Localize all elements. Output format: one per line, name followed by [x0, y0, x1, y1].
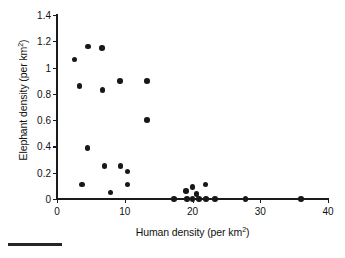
plot-area: 00.20.40.60.811.21.4010203040	[57, 15, 328, 199]
x-axis-tick	[125, 199, 126, 203]
y-axis-tick	[53, 146, 57, 147]
data-point	[125, 182, 131, 188]
data-point	[118, 163, 124, 169]
y-axis-tick-label: 0.4	[37, 141, 51, 152]
scatter-plot-figure: Elephant density (per km2) 00.20.40.60.8…	[0, 0, 345, 258]
data-point	[100, 87, 106, 93]
y-axis-title-text: Elephant density (per km	[17, 47, 29, 161]
data-point	[298, 196, 304, 202]
data-point	[190, 184, 196, 190]
y-axis-title-superscript: 2	[17, 43, 24, 47]
y-axis-tick	[53, 94, 57, 95]
y-axis-tick-label: 0.2	[37, 167, 51, 178]
data-point	[85, 145, 91, 151]
data-point	[144, 117, 150, 123]
y-axis-tick-label: 0.8	[37, 88, 51, 99]
y-axis-tick-label: 0	[45, 194, 51, 205]
data-point	[203, 182, 209, 188]
x-axis-tick-label: 20	[187, 206, 198, 217]
data-point	[183, 188, 189, 194]
data-point	[72, 57, 78, 63]
y-axis-tick-label: 1.2	[37, 36, 51, 47]
y-axis-tick	[53, 41, 57, 42]
bottom-rule	[8, 243, 62, 246]
data-point	[102, 163, 108, 169]
y-axis-tick-label: 1	[45, 62, 51, 73]
data-point	[108, 190, 114, 196]
x-axis-tick	[260, 199, 261, 203]
data-point	[212, 196, 218, 202]
y-axis-tick	[53, 173, 57, 174]
data-point	[117, 78, 123, 84]
y-axis-tick	[53, 120, 57, 121]
data-point	[85, 44, 91, 50]
y-axis-title-tail: )	[17, 40, 29, 43]
x-axis-tick-label: 10	[119, 206, 130, 217]
data-point	[125, 169, 131, 175]
data-point	[144, 78, 150, 84]
y-axis-tick-label: 1.4	[37, 10, 51, 21]
x-axis-tick	[57, 199, 58, 203]
x-axis-title-text: Human density (per km	[136, 226, 242, 238]
data-point	[243, 196, 249, 202]
data-point	[77, 83, 83, 89]
data-point	[99, 45, 105, 51]
x-axis-tick-label: 0	[54, 206, 60, 217]
data-point	[171, 196, 177, 202]
x-axis-tick-label: 30	[255, 206, 266, 217]
x-axis-tick	[328, 199, 329, 203]
x-axis-title-tail: )	[246, 226, 249, 238]
y-axis-tick	[53, 68, 57, 69]
x-axis-tick-label: 40	[322, 206, 333, 217]
x-axis-title: Human density (per km2)	[57, 226, 328, 238]
y-axis-tick	[53, 15, 57, 16]
data-point	[203, 196, 209, 202]
data-point	[79, 182, 85, 188]
y-axis-title: Elephant density (per km2)	[17, 5, 29, 195]
data-point	[196, 196, 202, 202]
data-point	[190, 196, 196, 202]
y-axis-tick-label: 0.6	[37, 115, 51, 126]
